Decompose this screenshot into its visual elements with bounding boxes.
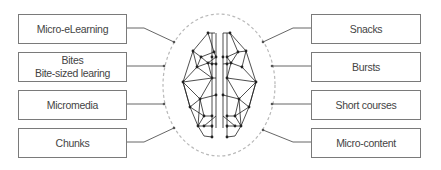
term-box-chunks: Chunks [18, 128, 127, 158]
term-sublabel: Bite-sized learing [35, 67, 110, 80]
term-box-snacks: Snacks [311, 14, 421, 44]
term-box-micro-content: Micro-content [311, 128, 421, 158]
term-label: Chunks [56, 137, 90, 150]
connector-left-4 [126, 128, 174, 142]
term-box-short-courses: Short courses [311, 90, 421, 120]
right-connector-dots [262, 41, 274, 132]
term-label: Micro-eLearning [37, 23, 108, 36]
brain-network-icon [183, 33, 256, 137]
diagram: Micro-eLearning Bites Bite-sized learing… [0, 0, 441, 170]
term-box-micro-elearning: Micro-eLearning [18, 14, 127, 44]
connector-right-4 [263, 130, 311, 142]
connector-left-1 [126, 28, 174, 42]
term-box-bursts: Bursts [311, 52, 421, 82]
term-label: Micromedia [47, 99, 98, 112]
term-label: Snacks [350, 23, 383, 36]
term-label: Micro-content [336, 137, 396, 150]
left-connectors [126, 28, 174, 142]
term-label: Bites [62, 54, 84, 67]
brain-network-nodes [182, 32, 258, 139]
term-label: Short courses [336, 99, 397, 112]
term-label: Bursts [352, 61, 380, 74]
term-box-micromedia: Micromedia [18, 90, 127, 120]
right-connectors [263, 28, 311, 142]
connector-right-1 [263, 28, 311, 42]
dashed-ellipse [163, 14, 275, 156]
term-box-bites: Bites Bite-sized learing [18, 52, 127, 82]
